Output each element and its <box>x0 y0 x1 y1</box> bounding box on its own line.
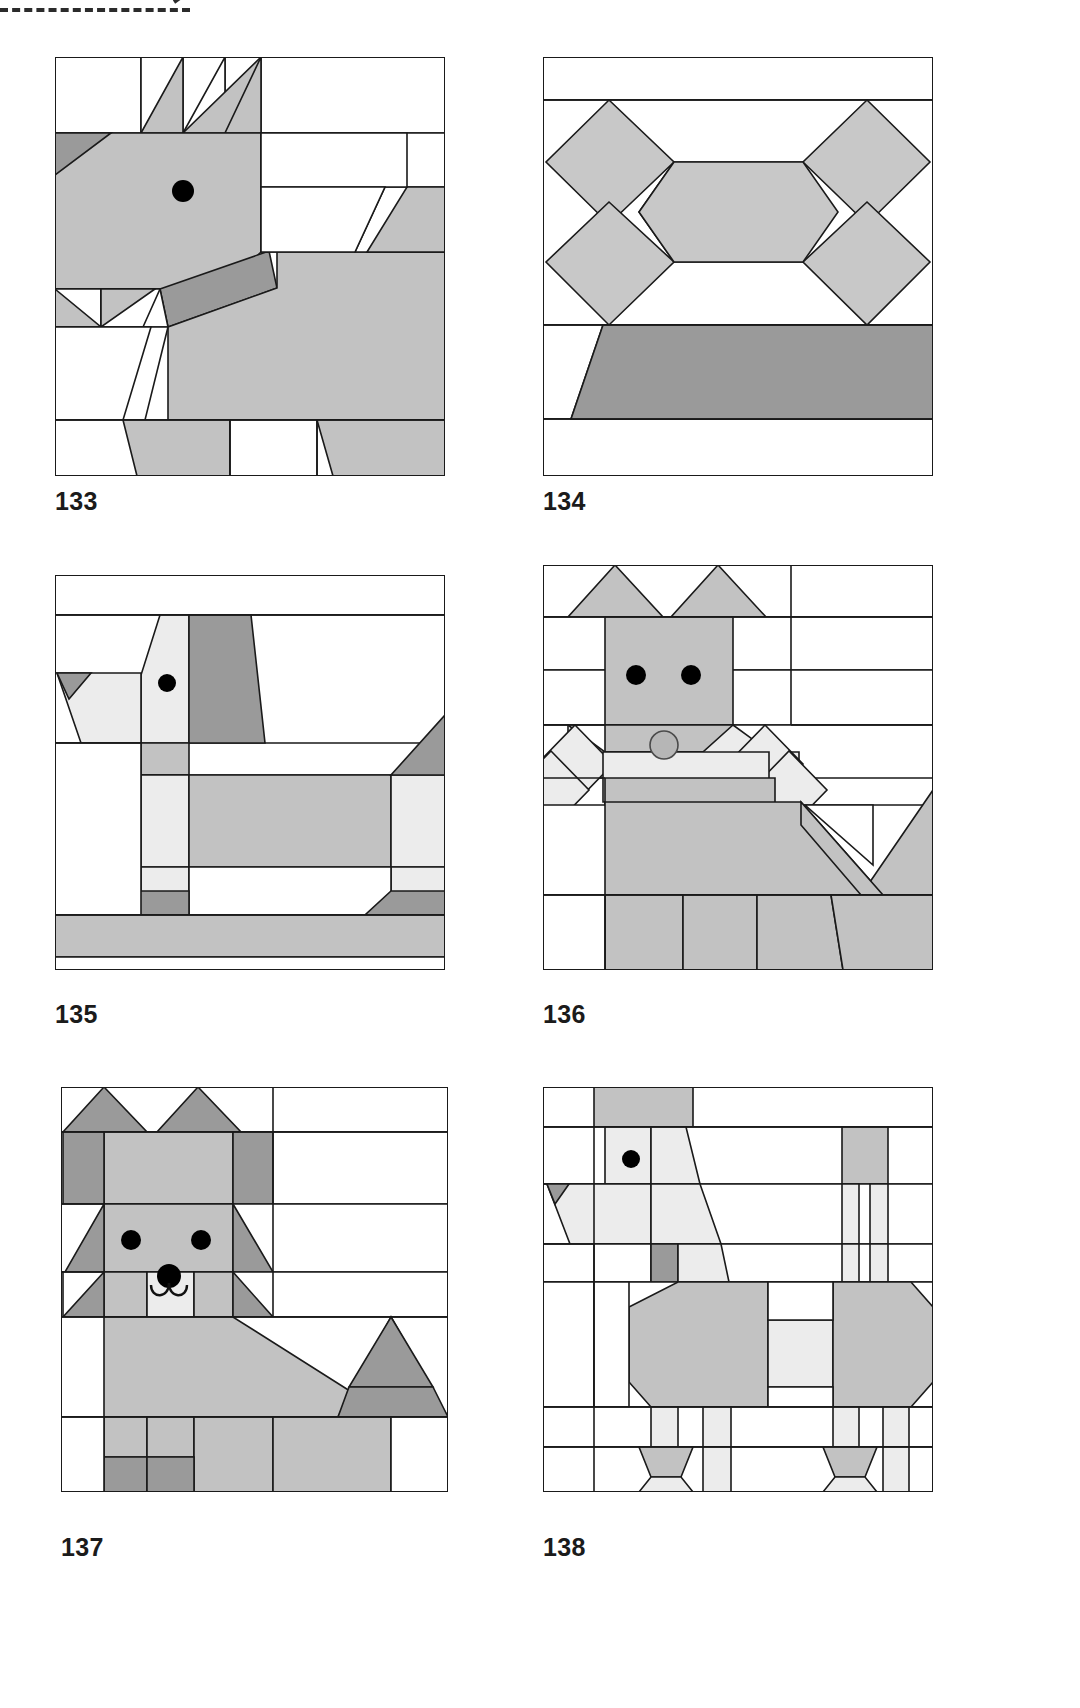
left-eye-dot <box>121 1230 141 1250</box>
block-caption-133: 133 <box>55 487 98 516</box>
left-eye-dot <box>626 665 646 685</box>
block-136-figure <box>543 565 933 970</box>
nose-circle <box>650 731 678 759</box>
block-136-svg <box>543 565 933 970</box>
block-135-svg <box>55 575 445 970</box>
block-135-figure <box>55 575 445 970</box>
block-134-figure <box>543 57 933 476</box>
block-133-figure <box>55 57 445 476</box>
block-caption-134: 134 <box>543 487 586 516</box>
right-eye-dot <box>681 665 701 685</box>
block-caption-136: 136 <box>543 1000 586 1029</box>
eye-dot <box>158 674 176 692</box>
block-caption-138: 138 <box>543 1533 586 1562</box>
block-grid: 133 <box>0 0 1080 1708</box>
block-caption-135: 135 <box>55 1000 98 1029</box>
right-eye-dot <box>191 1230 211 1250</box>
block-134-svg <box>543 57 933 476</box>
block-137-svg <box>61 1087 448 1492</box>
page-canvas: 133 <box>0 0 1080 1708</box>
block-138-svg <box>543 1087 933 1492</box>
block-caption-137: 137 <box>61 1533 104 1562</box>
block-137-figure <box>61 1087 448 1492</box>
block-138-figure <box>543 1087 933 1492</box>
eye-dot <box>622 1150 640 1168</box>
eye-dot <box>172 180 194 202</box>
block-133-svg <box>55 57 445 476</box>
